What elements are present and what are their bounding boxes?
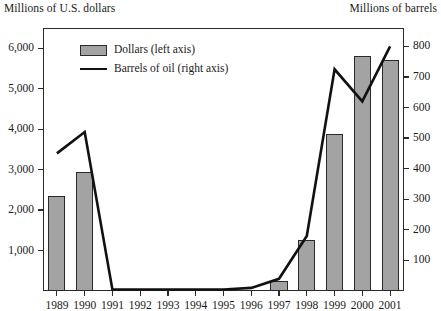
left-tick-label: 2,000 [0, 203, 34, 215]
x-tick-mark [223, 291, 224, 296]
left-tick-label: 5,000 [0, 82, 34, 94]
x-tick-mark [167, 291, 168, 296]
right-axis-title: Millions of barrels [350, 2, 438, 14]
right-tick-mark [404, 46, 409, 47]
x-tick-mark [390, 291, 391, 296]
left-tick-mark [38, 88, 43, 89]
right-tick-label: 300 [413, 192, 430, 204]
x-tick-label: 1995 [210, 299, 238, 311]
x-tick-label: 1992 [126, 299, 154, 311]
legend-swatch-dollars [80, 45, 107, 56]
x-tick-label: 1990 [71, 299, 99, 311]
right-tick-label: 400 [413, 162, 430, 174]
left-tick-mark [38, 48, 43, 49]
left-tick-mark [38, 169, 43, 170]
right-tick-label: 200 [413, 223, 430, 235]
right-tick-mark [404, 76, 409, 77]
right-tick-mark [404, 199, 409, 200]
x-tick-label: 1991 [99, 299, 127, 311]
x-tick-mark [112, 291, 113, 296]
right-tick-label: 500 [413, 131, 430, 143]
right-tick-mark [404, 137, 409, 138]
bar [354, 56, 371, 291]
bar [270, 281, 287, 291]
x-tick-mark [56, 291, 57, 296]
x-tick-mark [140, 291, 141, 296]
legend-label: Dollars (left axis) [114, 43, 195, 55]
x-tick-label: 1997 [265, 299, 293, 311]
chart-figure: Millions of U.S. dollars Millions of bar… [0, 0, 441, 311]
x-tick-mark [306, 291, 307, 296]
x-tick-label: 1999 [321, 299, 349, 311]
legend-line-barrels [80, 68, 107, 71]
left-tick-mark [38, 209, 43, 210]
right-tick-label: 700 [413, 70, 430, 82]
x-tick-mark [195, 291, 196, 296]
right-tick-mark [404, 107, 409, 108]
right-tick-label: 600 [413, 101, 430, 113]
x-tick-mark [84, 291, 85, 296]
left-tick-label: 1,000 [0, 244, 34, 256]
legend-label: Barrels of oil (right axis) [114, 62, 228, 74]
right-tick-mark [404, 260, 409, 261]
x-tick-label: 1994 [182, 299, 210, 311]
x-tick-label: 1993 [154, 299, 182, 311]
x-tick-label: 1989 [43, 299, 71, 311]
bar [382, 60, 399, 291]
left-tick-mark [38, 250, 43, 251]
left-axis-title: Millions of U.S. dollars [4, 2, 115, 14]
x-tick-label: 2000 [348, 299, 376, 311]
x-tick-mark [251, 291, 252, 296]
x-tick-label: 2001 [376, 299, 404, 311]
x-tick-mark [334, 291, 335, 296]
right-tick-mark [404, 168, 409, 169]
x-tick-mark [362, 291, 363, 296]
bar [76, 172, 93, 291]
right-tick-label: 100 [413, 253, 430, 265]
left-tick-mark [38, 129, 43, 130]
right-tick-mark [404, 229, 409, 230]
x-tick-label: 1998 [293, 299, 321, 311]
x-tick-mark [278, 291, 279, 296]
bar [326, 134, 343, 291]
bar [298, 240, 315, 291]
right-tick-label: 800 [413, 39, 430, 51]
left-tick-label: 3,000 [0, 163, 34, 175]
left-tick-label: 4,000 [0, 122, 34, 134]
x-tick-label: 1996 [237, 299, 265, 311]
bar [48, 196, 65, 291]
left-tick-label: 6,000 [0, 41, 34, 53]
